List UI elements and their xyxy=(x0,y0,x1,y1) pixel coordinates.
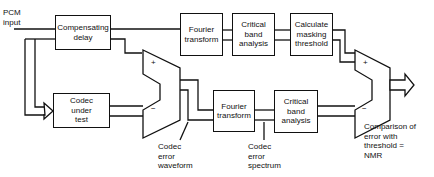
codec-label: Codec under test xyxy=(70,96,93,125)
critical-top-label: Critical band analysis xyxy=(239,20,268,49)
subtractor1-minus: − xyxy=(151,104,156,113)
compensating-delay-label: Compensating delay xyxy=(57,23,109,42)
comparison-nmr-label: Comparison of error with threshold = NMR xyxy=(364,122,416,160)
critical-bottom-label: Critical band analysis xyxy=(282,97,311,126)
masking-threshold-block: Calculate masking threshold xyxy=(290,13,333,56)
fourier-transform-bottom-block: Fourier transform xyxy=(213,90,255,132)
critical-band-top-block: Critical band analysis xyxy=(232,13,275,56)
codec-error-waveform-label: Codec error waveform xyxy=(158,142,193,171)
subtractor2-minus: − xyxy=(362,104,367,113)
pcm-input-label: PCM input xyxy=(3,8,21,27)
compensating-delay-block: Compensating delay xyxy=(55,15,111,50)
fourier-top-label: Fourier transform xyxy=(185,25,219,44)
critical-band-bottom-block: Critical band analysis xyxy=(274,90,318,133)
subtractor1-plus: + xyxy=(151,58,156,67)
codec-under-test-block: Codec under test xyxy=(53,93,110,128)
masking-label: Calculate masking threshold xyxy=(295,20,328,49)
fourier-transform-top-block: Fourier transform xyxy=(180,13,223,56)
codec-error-spectrum-label: Codec error spectrum xyxy=(248,142,281,171)
subtractor2-plus: + xyxy=(363,58,368,67)
fourier-bottom-label: Fourier transform xyxy=(217,102,251,121)
